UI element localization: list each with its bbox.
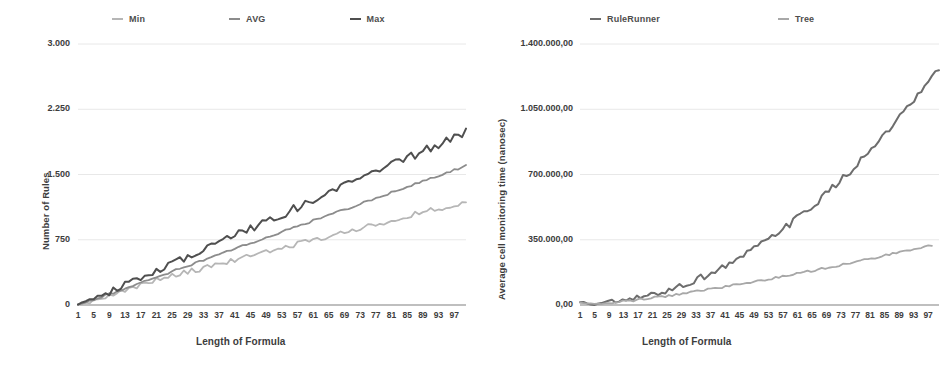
chart-panel-monitoring-time: RuleRunnerTree Average cell monitoring t… (474, 0, 949, 365)
x-axis-title-right: Length of Formula (642, 336, 731, 347)
series-line-rulerunner (580, 70, 939, 305)
chart-panel-number-of-rules: MinAVGMax Number of Rules 07501.5002.250… (0, 0, 474, 365)
series-line-min (78, 202, 466, 304)
series-line-max (78, 129, 466, 305)
x-axis-title-left: Length of Formula (196, 336, 285, 347)
plot-area-left (0, 0, 474, 365)
plot-area-right (474, 0, 948, 365)
series-line-tree (580, 245, 932, 304)
figure-pair: MinAVGMax Number of Rules 07501.5002.250… (0, 0, 949, 365)
series-line-avg (78, 165, 466, 304)
